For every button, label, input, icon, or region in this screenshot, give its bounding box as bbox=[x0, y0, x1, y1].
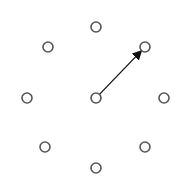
edges-group bbox=[99, 51, 140, 94]
node-upper-left bbox=[43, 42, 53, 52]
node-bottom bbox=[91, 163, 101, 173]
node-lower-left bbox=[40, 142, 50, 152]
node-diagram bbox=[0, 0, 188, 179]
node-left bbox=[22, 93, 32, 103]
node-lower-right bbox=[140, 142, 150, 152]
arrow-center-to-upper-right bbox=[99, 51, 140, 94]
node-right bbox=[159, 93, 169, 103]
nodes-group bbox=[22, 22, 169, 173]
node-upper-right bbox=[140, 42, 150, 52]
node-top bbox=[91, 22, 101, 32]
diagram-canvas bbox=[0, 0, 188, 179]
node-center bbox=[91, 93, 101, 103]
